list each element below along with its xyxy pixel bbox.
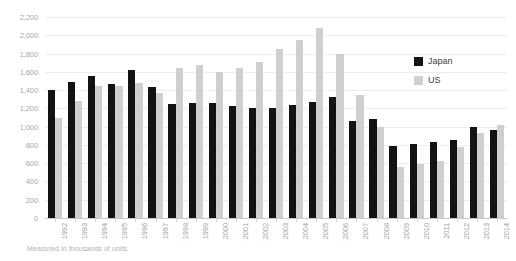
bar-japan-1998 bbox=[168, 104, 175, 218]
x-axis-tick bbox=[276, 219, 277, 222]
bar-us-1993 bbox=[75, 101, 82, 218]
bar-group bbox=[125, 17, 145, 218]
bar-group bbox=[487, 17, 507, 218]
legend-item-us[interactable]: US bbox=[414, 75, 498, 85]
bar-group bbox=[407, 17, 427, 218]
bar-us-2012 bbox=[457, 147, 464, 218]
bar-group bbox=[286, 17, 306, 218]
bar-group bbox=[306, 17, 326, 218]
x-axis-tick bbox=[316, 219, 317, 222]
bar-japan-2012 bbox=[450, 140, 457, 218]
bar-us-2003 bbox=[276, 49, 283, 218]
y-axis-tick-label: 1,200 bbox=[20, 104, 38, 113]
x-axis-group: 2006 bbox=[326, 219, 346, 251]
bar-group bbox=[186, 17, 206, 218]
chart-legend: JapanUS bbox=[414, 56, 498, 94]
bar-group bbox=[166, 17, 186, 218]
bar-group bbox=[226, 17, 246, 218]
bar-group bbox=[387, 17, 407, 218]
legend-swatch-icon bbox=[414, 57, 423, 66]
bar-group bbox=[326, 17, 346, 218]
bar-group bbox=[45, 17, 65, 218]
bar-japan-2007 bbox=[349, 121, 356, 218]
bar-japan-1992 bbox=[48, 90, 55, 218]
x-axis-group: 2005 bbox=[306, 219, 326, 251]
x-axis-group: 1996 bbox=[125, 219, 145, 251]
y-axis-tick-label: 600 bbox=[26, 159, 38, 168]
bar-chart: 02004006008001,0001,2001,4001,6001,8002,… bbox=[0, 0, 516, 261]
x-axis-group: 2003 bbox=[266, 219, 286, 251]
x-axis-tick bbox=[135, 219, 136, 222]
x-axis-group: 2009 bbox=[387, 219, 407, 251]
bar-group bbox=[467, 17, 487, 218]
x-axis-tick bbox=[156, 219, 157, 222]
legend-item-japan[interactable]: Japan bbox=[414, 56, 498, 66]
y-axis-tick-label: 0 bbox=[34, 214, 38, 223]
x-axis-tick bbox=[176, 219, 177, 222]
y-axis-tick-label: 2,200 bbox=[20, 13, 38, 22]
x-axis-tick bbox=[457, 219, 458, 222]
y-axis: 02004006008001,0001,2001,4001,6001,8002,… bbox=[0, 17, 43, 218]
x-axis-tick bbox=[196, 219, 197, 222]
x-axis-tick bbox=[417, 219, 418, 222]
bar-us-1999 bbox=[196, 65, 203, 218]
bar-japan-2006 bbox=[329, 97, 336, 218]
bar-japan-2002 bbox=[249, 108, 256, 218]
bar-group bbox=[266, 17, 286, 218]
bar-us-2007 bbox=[356, 95, 363, 218]
x-axis-tick bbox=[256, 219, 257, 222]
bar-group bbox=[447, 17, 467, 218]
bar-japan-1999 bbox=[189, 103, 196, 218]
bar-japan-2000 bbox=[209, 103, 216, 218]
x-axis-group: 2007 bbox=[346, 219, 366, 251]
x-axis-tick bbox=[336, 219, 337, 222]
x-axis-group: 2010 bbox=[407, 219, 427, 251]
bar-us-2002 bbox=[256, 62, 263, 218]
bar-group bbox=[105, 17, 125, 218]
bar-group bbox=[246, 17, 266, 218]
y-axis-tick-label: 2,000 bbox=[20, 31, 38, 40]
y-axis-tick-label: 200 bbox=[26, 195, 38, 204]
bar-group bbox=[65, 17, 85, 218]
x-axis-tick bbox=[115, 219, 116, 222]
plot-area bbox=[45, 17, 507, 218]
x-axis-group: 2011 bbox=[427, 219, 447, 251]
y-axis-tick-label: 1,000 bbox=[20, 122, 38, 131]
bar-us-2008 bbox=[377, 127, 384, 218]
bar-groups bbox=[45, 17, 507, 218]
bar-group bbox=[367, 17, 387, 218]
bar-japan-2010 bbox=[410, 144, 417, 218]
bar-us-1995 bbox=[115, 86, 122, 218]
y-axis-tick-label: 1,400 bbox=[20, 86, 38, 95]
bar-japan-2003 bbox=[269, 108, 276, 218]
bar-us-1992 bbox=[55, 118, 62, 218]
bar-japan-1997 bbox=[148, 87, 155, 218]
bar-japan-1996 bbox=[128, 70, 135, 218]
bar-us-1994 bbox=[95, 86, 102, 218]
x-axis-group: 2000 bbox=[206, 219, 226, 251]
x-axis-group: 2012 bbox=[447, 219, 467, 251]
x-axis-tick bbox=[497, 219, 498, 222]
bar-us-2001 bbox=[236, 68, 243, 218]
bar-japan-2009 bbox=[389, 146, 396, 218]
bar-group bbox=[427, 17, 447, 218]
bar-japan-1994 bbox=[88, 76, 95, 218]
x-axis-tick bbox=[216, 219, 217, 222]
x-axis-tick bbox=[75, 219, 76, 222]
bar-japan-2014 bbox=[490, 130, 497, 218]
bar-japan-2011 bbox=[430, 142, 437, 218]
legend-label: US bbox=[428, 75, 441, 85]
x-axis-tick bbox=[236, 219, 237, 222]
y-axis-tick-label: 1,800 bbox=[20, 49, 38, 58]
bar-us-2010 bbox=[417, 164, 424, 218]
bar-us-1997 bbox=[156, 93, 163, 218]
bar-group bbox=[206, 17, 226, 218]
bar-japan-2013 bbox=[470, 127, 477, 218]
bar-group bbox=[346, 17, 366, 218]
x-axis-group: 2013 bbox=[467, 219, 487, 251]
x-axis-group: 2004 bbox=[286, 219, 306, 251]
x-axis-tick bbox=[296, 219, 297, 222]
bar-us-1998 bbox=[176, 68, 183, 218]
x-axis-tick-label: 2014 bbox=[502, 223, 511, 239]
bar-us-2014 bbox=[497, 125, 504, 218]
